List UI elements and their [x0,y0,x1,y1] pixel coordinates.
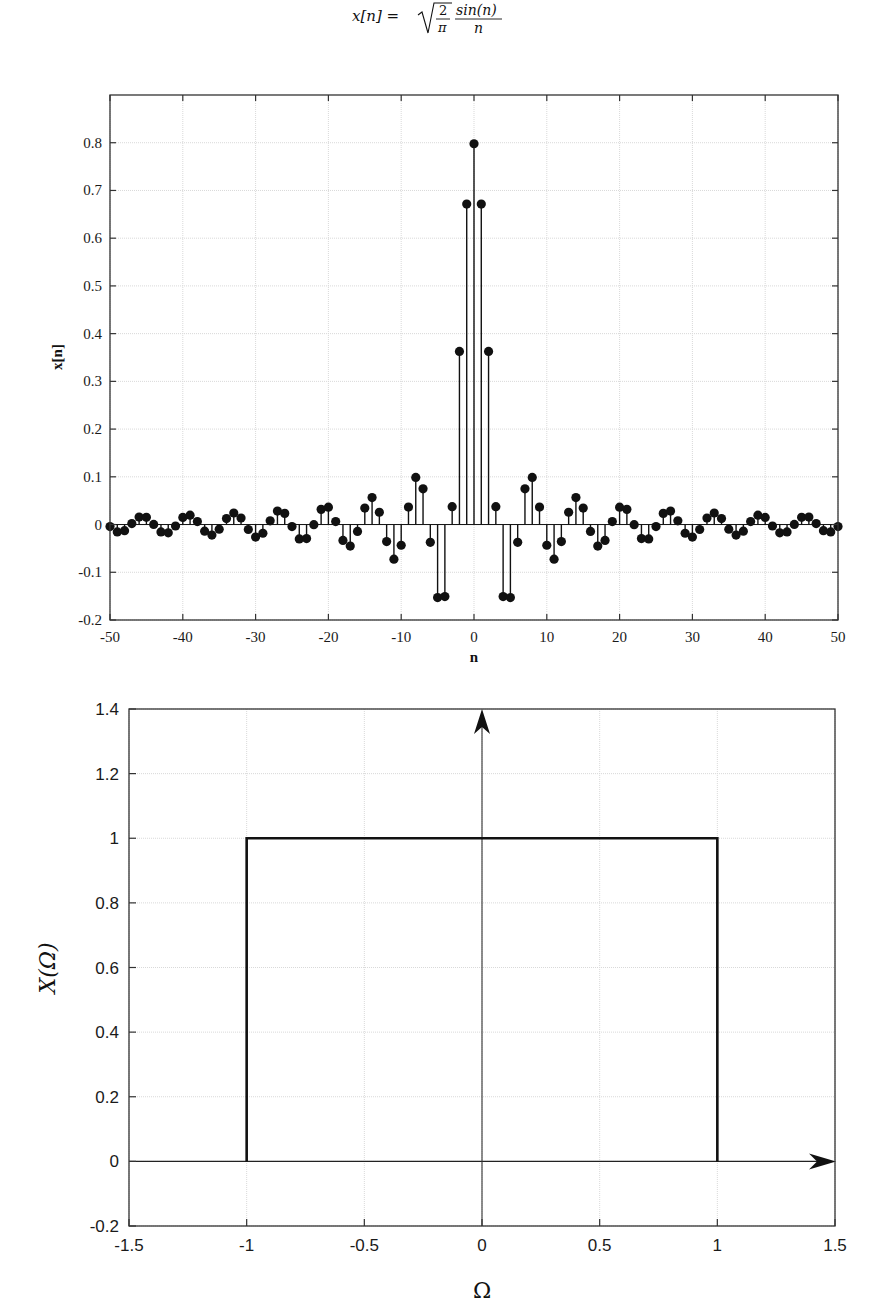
stem-marker [586,527,595,536]
bottom-ytick-label: 1.2 [95,765,119,784]
top-xtick-label: -30 [246,629,266,645]
title-frac-den: n [474,20,483,36]
top-ticks: -50-40-30-20-1001020304050-0.2-0.100.10.… [78,95,845,645]
stem-marker [812,519,821,528]
top-ytick-label: 0.6 [83,230,102,246]
top-ytick-label: 0.3 [83,373,102,389]
stem-marker [142,513,151,522]
stem-marker [804,512,813,521]
stem-marker [513,538,522,547]
stem-marker [826,527,835,536]
top-xtick-label: -10 [391,629,411,645]
stem-marker [331,517,340,526]
stem-marker [455,347,464,356]
top-xtick-label: -20 [318,629,338,645]
bottom-ytick-label: 0.8 [95,894,119,913]
stem-marker [666,506,675,515]
stem-marker [382,537,391,546]
top-ytick-label: 0.2 [83,421,102,437]
figure: -50-40-30-20-1001020304050-0.2-0.100.10.… [0,0,889,1315]
stem-marker [309,520,318,529]
bottom-xtick-label: 1.5 [823,1236,847,1255]
bottom-ytick-label: 1 [110,829,119,848]
stem-marker [440,592,449,601]
stem-marker [324,503,333,512]
stem-marker [222,514,231,523]
bottom-xtick-label: -0.5 [350,1236,379,1255]
stem-marker [367,493,376,502]
top-ytick-label: 0.8 [83,135,102,151]
stem-marker [746,517,755,526]
stem-marker [215,525,224,534]
bottom-ytick-label: 0.6 [95,959,119,978]
stem-marker [600,536,609,545]
stem-marker [491,502,500,511]
top-xlabel: n [470,649,479,665]
stem-marker [404,503,413,512]
stem-marker [411,473,420,482]
stem-marker [120,526,129,535]
top-ytick-label: 0.7 [83,182,102,198]
stem-marker [426,538,435,547]
stem-marker [207,530,216,539]
title-frac-num: sin(n) [456,2,497,18]
stem-marker [469,139,478,148]
stem-marker [236,513,245,522]
bottom-ytick-label: 0.2 [95,1088,119,1107]
top-ytick-label: -0.2 [78,612,102,628]
top-ytick-label: 0.1 [83,469,102,485]
stem-marker [630,520,639,529]
top-xtick-label: 30 [685,629,700,645]
stem-marker [768,521,777,530]
stem-marker [375,508,384,517]
bottom-xtick-label: 0.5 [588,1236,612,1255]
bottom-line-plot: -1.5-1-0.500.511.5-0.200.20.40.60.811.21… [35,700,847,1303]
stem-marker [506,593,515,602]
stem-marker [564,508,573,517]
top-ytick-label: 0 [95,517,103,533]
stem-marker [782,527,791,536]
stem-marker [185,511,194,520]
top-ytick-label: -0.1 [78,564,102,580]
bottom-xtick-label: -1 [239,1236,254,1255]
stem-marker [608,517,617,526]
title-lhs: x[n] = [352,7,399,25]
stem-marker [360,503,369,512]
stem-marker [542,541,551,550]
bottom-ytick-label: -0.2 [90,1217,119,1236]
stem-marker [127,519,136,528]
top-stem-plot: -50-40-30-20-1001020304050-0.2-0.100.10.… [49,2,846,665]
stem-marker [280,509,289,518]
stem-marker [193,517,202,526]
stem-marker [338,536,347,545]
bottom-ticks: -1.5-1-0.500.511.5-0.200.20.40.60.811.21… [90,700,847,1255]
stem-marker [549,555,558,564]
bottom-ylabel: X(Ω) [35,942,60,995]
top-xtick-label: 0 [470,629,478,645]
top-xtick-label: -40 [173,629,193,645]
stem-marker [739,527,748,536]
stem-marker [557,537,566,546]
top-xtick-label: 20 [612,629,627,645]
stem-marker [353,527,362,536]
top-stems [105,139,842,602]
stem-marker [389,555,398,564]
bottom-ytick-label: 0.4 [95,1023,119,1042]
stem-marker [164,528,173,537]
stem-marker [258,529,267,538]
stem-marker [484,347,493,356]
stem-marker [418,484,427,493]
stem-marker [761,513,770,522]
top-ylabel: x[n] [49,344,65,370]
top-title: x[n] = 2 π sin(n) n [352,2,502,36]
stem-marker [477,200,486,209]
bottom-ytick-label: 0 [110,1152,119,1171]
stem-marker [448,502,457,511]
bottom-ytick-label: 1.4 [95,700,119,719]
stem-marker [302,534,311,543]
title-sqrt-num: 2 [439,3,447,18]
stem-marker [644,534,653,543]
stem-marker [171,521,180,530]
stem-marker [528,473,537,482]
stem-marker [790,520,799,529]
